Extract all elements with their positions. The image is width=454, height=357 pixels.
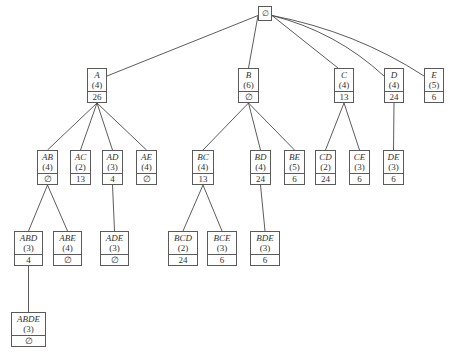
node-e: E(5)6	[424, 68, 444, 103]
node-support-count: (4)	[88, 80, 106, 91]
node-itemset-label: BC	[193, 151, 213, 162]
node-ae: AE(4)∅	[136, 150, 157, 185]
node-cost-value: ∅	[239, 91, 258, 103]
edge-bc-bce	[203, 185, 222, 231]
node-cost-value: 24	[169, 254, 197, 266]
node-support-count: (3)	[101, 243, 128, 254]
node-itemset-label: B	[239, 69, 258, 80]
node-support-count: (3)	[12, 324, 45, 335]
node-itemset-label: A	[88, 69, 106, 80]
node-bcd: BCD(2)24	[168, 231, 198, 266]
node-support-count: (2)	[316, 162, 335, 173]
node-cost-value: 6	[208, 254, 236, 266]
node-support-count: (2)	[169, 243, 197, 254]
node-support-count: (5)	[285, 162, 304, 173]
node-support-count: (3)	[384, 162, 403, 173]
node-cost-value: 13	[335, 91, 353, 103]
node-cost-value: ∅	[54, 254, 81, 266]
node-support-count: (4)	[251, 162, 270, 173]
node-cd: CD(2)24	[315, 150, 336, 185]
edge-a-ac	[81, 103, 98, 150]
node-itemset-label: C	[335, 69, 353, 80]
edge-ad-ade	[113, 185, 115, 231]
edge-root-b	[249, 16, 259, 69]
edge-b-be	[249, 103, 295, 150]
node-bc: BC(4)13	[192, 150, 214, 185]
node-support-count: (3)	[103, 162, 122, 173]
node-support-count: (4)	[38, 162, 57, 173]
edge-b-bc	[203, 103, 249, 150]
root-node-empty-set: ∅	[258, 6, 272, 21]
node-itemset-label: D	[385, 69, 403, 80]
node-cost-value: ∅	[101, 254, 128, 266]
node-bd: BD(4)24	[250, 150, 271, 185]
node-support-count: (3)	[350, 162, 369, 173]
node-bce: BCE(3)6	[207, 231, 237, 266]
node-support-count: (3)	[208, 243, 236, 254]
node-b: B(6)∅	[238, 68, 259, 103]
node-support-count: (6)	[239, 80, 258, 91]
node-cost-value: 4	[15, 254, 42, 266]
node-cost-value: ∅	[137, 173, 156, 185]
node-abe: ABE(4)∅	[53, 231, 82, 266]
node-itemset-label: AE	[137, 151, 156, 162]
node-cost-value: 26	[88, 91, 106, 103]
node-itemset-label: E	[425, 69, 443, 80]
node-ad: AD(3)4	[102, 150, 123, 185]
edge-bc-bcd	[183, 185, 203, 231]
node-d: D(4)24	[384, 68, 404, 103]
edge-ab-abe	[48, 185, 68, 231]
node-itemset-label: AD	[103, 151, 122, 162]
node-itemset-label: BD	[251, 151, 270, 162]
node-support-count: (2)	[71, 162, 90, 173]
node-itemset-label: ABDE	[12, 313, 45, 324]
node-support-count: (5)	[425, 80, 443, 91]
node-cost-value: ∅	[38, 173, 57, 185]
node-support-count: (3)	[251, 243, 279, 254]
node-support-count: (4)	[335, 80, 353, 91]
edge-c-ce	[344, 103, 360, 150]
node-ce: CE(3)6	[349, 150, 370, 185]
node-itemset-label: ADE	[101, 232, 128, 243]
node-cost-value: 24	[251, 173, 270, 185]
itemset-tree-diagram: ∅ A(4)26B(6)∅C(4)13D(4)24E(5)6AB(4)∅AC(2…	[0, 0, 454, 357]
node-support-count: (3)	[15, 243, 42, 254]
node-itemset-label: BCE	[208, 232, 236, 243]
node-cost-value: 13	[193, 173, 213, 185]
node-support-count: (4)	[385, 80, 403, 91]
node-bde: BDE(3)6	[250, 231, 280, 266]
node-cost-value: 6	[384, 173, 403, 185]
node-itemset-label: ABD	[15, 232, 42, 243]
node-itemset-label: AB	[38, 151, 57, 162]
node-a: A(4)26	[87, 68, 107, 103]
node-cost-value: 6	[285, 173, 304, 185]
node-itemset-label: CE	[350, 151, 369, 162]
node-cost-value: 13	[71, 173, 90, 185]
node-ade: ADE(3)∅	[100, 231, 129, 266]
node-itemset-label: BDE	[251, 232, 279, 243]
node-cost-value: 6	[350, 173, 369, 185]
node-cost-value: 6	[251, 254, 279, 266]
edge-bd-bde	[261, 185, 266, 231]
node-abde: ABDE(3)∅	[11, 312, 46, 347]
edge-b-bd	[249, 103, 261, 150]
edge-a-ab	[48, 103, 98, 150]
node-abd: ABD(3)4	[14, 231, 43, 266]
node-ab: AB(4)∅	[37, 150, 58, 185]
node-cost-value: 24	[316, 173, 335, 185]
node-support-count: (4)	[193, 162, 213, 173]
node-be: BE(5)6	[284, 150, 305, 185]
edge-c-cd	[326, 103, 345, 150]
edge-ab-abd	[29, 185, 48, 231]
node-itemset-label: CD	[316, 151, 335, 162]
node-cost-value: 6	[425, 91, 443, 103]
edge-d-de	[394, 103, 395, 150]
node-cost-value: ∅	[12, 335, 45, 347]
node-cost-value: 24	[385, 91, 403, 103]
node-support-count: (4)	[54, 243, 81, 254]
node-support-count: (4)	[137, 162, 156, 173]
root-label: ∅	[262, 9, 269, 18]
edge-root-d	[272, 16, 384, 77]
node-itemset-label: DE	[384, 151, 403, 162]
node-itemset-label: ABE	[54, 232, 81, 243]
